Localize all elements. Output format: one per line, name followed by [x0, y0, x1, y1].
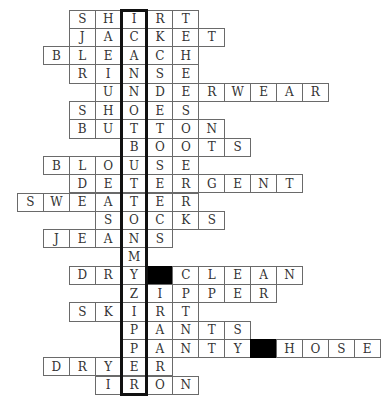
letter-cell[interactable]: N: [172, 376, 199, 395]
letter-cell[interactable]: L: [69, 46, 96, 65]
letter-cell[interactable]: Y: [224, 339, 251, 358]
letter-cell[interactable]: P: [198, 284, 225, 303]
letter-cell[interactable]: Y: [95, 357, 122, 376]
letter-cell[interactable]: T: [172, 10, 199, 29]
letter-cell[interactable]: S: [328, 339, 355, 358]
letter-cell[interactable]: T: [198, 321, 225, 340]
letter-cell[interactable]: R: [147, 10, 174, 29]
letter-cell[interactable]: N: [121, 229, 148, 248]
letter-cell[interactable]: N: [121, 64, 148, 83]
letter-cell[interactable]: P: [121, 339, 148, 358]
letter-cell[interactable]: N: [276, 266, 303, 285]
letter-cell[interactable]: J: [43, 229, 70, 248]
letter-cell[interactable]: H: [95, 101, 122, 120]
letter-cell[interactable]: U: [95, 83, 122, 102]
letter-cell[interactable]: S: [198, 211, 225, 230]
letter-cell[interactable]: R: [172, 193, 199, 212]
letter-cell[interactable]: O: [302, 339, 329, 358]
letter-cell[interactable]: K: [147, 28, 174, 47]
letter-cell[interactable]: U: [121, 156, 148, 175]
letter-cell[interactable]: T: [172, 302, 199, 321]
letter-cell[interactable]: E: [172, 64, 199, 83]
letter-cell[interactable]: E: [172, 28, 199, 47]
letter-cell[interactable]: E: [250, 83, 277, 102]
letter-cell[interactable]: O: [95, 156, 122, 175]
letter-cell[interactable]: A: [121, 46, 148, 65]
letter-cell[interactable]: L: [69, 156, 96, 175]
letter-cell[interactable]: O: [172, 138, 199, 157]
letter-cell[interactable]: R: [172, 174, 199, 193]
letter-cell[interactable]: R: [147, 302, 174, 321]
letter-cell[interactable]: E: [172, 83, 199, 102]
letter-cell[interactable]: S: [95, 211, 122, 230]
letter-cell[interactable]: E: [172, 156, 199, 175]
letter-cell[interactable]: A: [147, 339, 174, 358]
letter-cell[interactable]: S: [224, 321, 251, 340]
letter-cell[interactable]: A: [276, 83, 303, 102]
letter-cell[interactable]: A: [250, 266, 277, 285]
letter-cell[interactable]: T: [147, 119, 174, 138]
letter-cell[interactable]: E: [95, 174, 122, 193]
letter-cell[interactable]: W: [43, 193, 70, 212]
letter-cell[interactable]: E: [354, 339, 381, 358]
letter-cell[interactable]: R: [198, 83, 225, 102]
letter-cell[interactable]: T: [276, 174, 303, 193]
letter-cell[interactable]: O: [121, 211, 148, 230]
letter-cell[interactable]: E: [69, 193, 96, 212]
letter-cell[interactable]: I: [121, 10, 148, 29]
letter-cell[interactable]: C: [172, 266, 199, 285]
letter-cell[interactable]: A: [147, 321, 174, 340]
letter-cell[interactable]: R: [302, 83, 329, 102]
letter-cell[interactable]: E: [95, 46, 122, 65]
letter-cell[interactable]: S: [147, 229, 174, 248]
letter-cell[interactable]: N: [250, 174, 277, 193]
letter-cell[interactable]: O: [147, 138, 174, 157]
letter-cell[interactable]: O: [172, 119, 199, 138]
letter-cell[interactable]: L: [198, 266, 225, 285]
letter-cell[interactable]: E: [224, 174, 251, 193]
letter-cell[interactable]: W: [224, 83, 251, 102]
letter-cell[interactable]: R: [95, 266, 122, 285]
letter-cell[interactable]: C: [147, 211, 174, 230]
letter-cell[interactable]: P: [121, 321, 148, 340]
letter-cell[interactable]: E: [121, 357, 148, 376]
letter-cell[interactable]: N: [172, 321, 199, 340]
letter-cell[interactable]: B: [121, 138, 148, 157]
letter-cell[interactable]: B: [43, 156, 70, 175]
letter-cell[interactable]: K: [172, 211, 199, 230]
letter-cell[interactable]: R: [147, 357, 174, 376]
letter-cell[interactable]: R: [69, 357, 96, 376]
letter-cell[interactable]: D: [43, 357, 70, 376]
letter-cell[interactable]: T: [121, 174, 148, 193]
letter-cell[interactable]: C: [147, 46, 174, 65]
letter-cell[interactable]: I: [95, 64, 122, 83]
letter-cell[interactable]: H: [172, 46, 199, 65]
letter-cell[interactable]: S: [172, 101, 199, 120]
letter-cell[interactable]: S: [69, 101, 96, 120]
letter-cell[interactable]: E: [147, 193, 174, 212]
letter-cell[interactable]: H: [95, 10, 122, 29]
letter-cell[interactable]: A: [95, 193, 122, 212]
letter-cell[interactable]: B: [69, 119, 96, 138]
letter-cell[interactable]: E: [147, 101, 174, 120]
letter-cell[interactable]: O: [121, 101, 148, 120]
letter-cell[interactable]: T: [121, 119, 148, 138]
letter-cell[interactable]: E: [224, 284, 251, 303]
letter-cell[interactable]: I: [147, 284, 174, 303]
letter-cell[interactable]: R: [250, 284, 277, 303]
letter-cell[interactable]: E: [224, 266, 251, 285]
letter-cell[interactable]: J: [69, 28, 96, 47]
letter-cell[interactable]: N: [172, 339, 199, 358]
letter-cell[interactable]: D: [147, 83, 174, 102]
letter-cell[interactable]: G: [198, 174, 225, 193]
letter-cell[interactable]: S: [147, 156, 174, 175]
letter-cell[interactable]: M: [121, 247, 148, 266]
letter-cell[interactable]: I: [95, 376, 122, 395]
letter-cell[interactable]: E: [69, 229, 96, 248]
letter-cell[interactable]: T: [198, 28, 225, 47]
letter-cell[interactable]: H: [276, 339, 303, 358]
letter-cell[interactable]: N: [198, 119, 225, 138]
letter-cell[interactable]: U: [95, 119, 122, 138]
letter-cell[interactable]: D: [69, 266, 96, 285]
letter-cell[interactable]: Z: [121, 284, 148, 303]
